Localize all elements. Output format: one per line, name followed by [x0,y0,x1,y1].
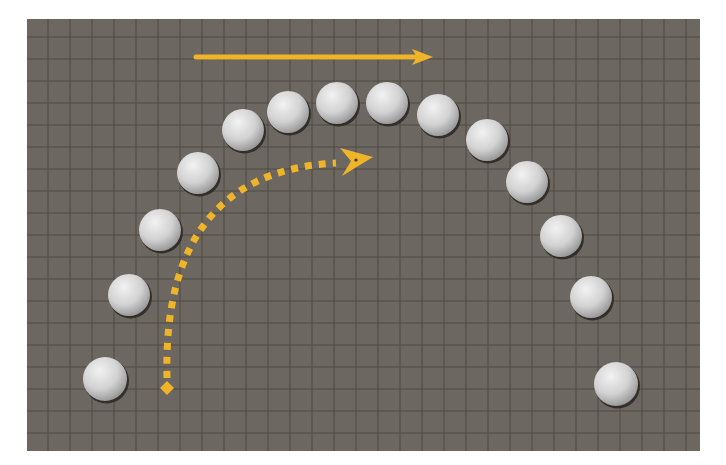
diagram-canvas [0,0,726,465]
arc-motion-diagram [0,0,726,465]
